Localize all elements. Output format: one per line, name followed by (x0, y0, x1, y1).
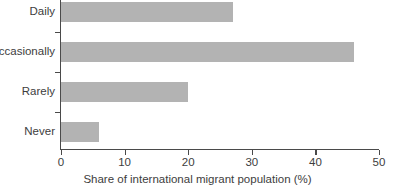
y-axis-tick (55, 72, 60, 73)
x-axis-tick-label: 30 (232, 156, 272, 169)
bar (61, 82, 188, 102)
bar (61, 2, 233, 22)
bar (61, 42, 354, 62)
x-axis-tick-label: 40 (295, 156, 335, 169)
x-axis-tick (379, 150, 380, 155)
x-axis-tick (188, 150, 189, 155)
bar-row: Never (0, 120, 395, 160)
bar (61, 122, 99, 142)
y-axis-tick (55, 112, 60, 113)
x-axis-tick (61, 150, 62, 155)
bar-row: Daily (0, 0, 395, 40)
category-label: Daily (0, 5, 55, 17)
x-axis-tick-label: 20 (168, 156, 208, 169)
x-axis-tick-label: 0 (41, 156, 81, 169)
bar-row: Rarely (0, 80, 395, 120)
x-axis-tick-label: 10 (105, 156, 145, 169)
bar-row: Occasionally (0, 40, 395, 80)
category-label: Rarely (0, 85, 55, 97)
category-label: Never (0, 125, 55, 137)
x-axis-tick-label: 50 (359, 156, 395, 169)
y-axis-tick (55, 32, 60, 33)
bar-chart: DailyOccasionallyRarelyNever 01020304050… (0, 0, 395, 189)
x-axis-tick (252, 150, 253, 155)
x-axis-tick (125, 150, 126, 155)
x-axis-title: Share of international migrant populatio… (0, 172, 395, 186)
x-axis-tick (315, 150, 316, 155)
category-label: Occasionally (0, 45, 55, 57)
